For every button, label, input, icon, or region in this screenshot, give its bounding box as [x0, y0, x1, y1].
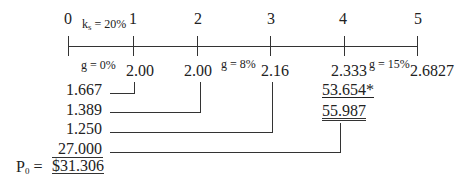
- period-5: 5: [414, 10, 422, 28]
- tick-1: [133, 36, 134, 56]
- cash-flow-t1: 2.00: [126, 62, 154, 80]
- tick-0: [68, 36, 69, 56]
- timeline-axis: [68, 46, 418, 47]
- pv-t3: 1.250: [60, 120, 102, 138]
- equals-sign: =: [33, 158, 42, 175]
- price-subscript: 0: [25, 166, 30, 175]
- tick-5: [417, 36, 418, 56]
- pv-t2: 1.389: [60, 101, 102, 119]
- horizon-value: 53.654*: [322, 81, 374, 99]
- connector-t4-h: [110, 152, 341, 153]
- cash-flow-t3: 2.16: [261, 62, 289, 80]
- connector-t2-v: [200, 82, 201, 113]
- cash-flow-t2: 2.00: [184, 62, 212, 80]
- connector-t2-h: [110, 112, 201, 113]
- connector-t3-h: [110, 132, 273, 133]
- total-cash-flow-t4: 55.987: [322, 103, 366, 121]
- pv-t4: 27.000: [52, 140, 102, 158]
- period-2: 2: [194, 10, 202, 28]
- period-3: 3: [267, 10, 275, 28]
- connector-t1-h: [110, 93, 135, 94]
- period-0: 0: [64, 10, 72, 28]
- connector-t3-v: [272, 82, 273, 133]
- price-symbol: P: [16, 158, 25, 175]
- growth-label-1: g = 8%: [221, 57, 256, 72]
- k-subscript: s: [88, 22, 92, 32]
- connector-t4-v: [340, 123, 341, 153]
- connector-t1-v: [134, 82, 135, 94]
- required-return-label: ks = 20%: [82, 17, 126, 32]
- period-4: 4: [339, 10, 347, 28]
- tick-3: [270, 36, 271, 56]
- cash-flow-t4: 2.333: [331, 62, 367, 80]
- tick-4: [344, 36, 345, 56]
- growth-label-0: g = 0%: [81, 58, 116, 73]
- price-label: P0 =: [16, 158, 42, 175]
- period-1: 1: [129, 10, 137, 28]
- growth-label-2: g = 15%: [369, 57, 410, 72]
- required-return-value: = 20%: [95, 17, 127, 31]
- pv-t1: 1.667: [60, 81, 102, 99]
- price-value: $31.306: [52, 158, 104, 175]
- tick-2: [197, 36, 198, 56]
- cash-flow-t5: 2.6827: [410, 62, 454, 80]
